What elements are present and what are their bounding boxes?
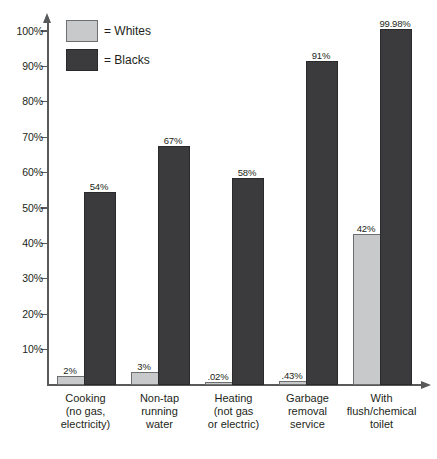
y-axis-line xyxy=(47,22,49,386)
y-axis-tick-label: 100% xyxy=(17,26,43,37)
y-axis-arrow-icon xyxy=(43,13,51,23)
legend-swatch-whites-icon xyxy=(66,20,98,42)
legend-label-whites: = Whites xyxy=(104,24,151,38)
bar-whites xyxy=(131,372,159,385)
bar-blacks xyxy=(232,178,264,385)
y-axis-tick-label: 60% xyxy=(22,167,43,178)
bar-value-label-blacks: 67% xyxy=(148,136,198,146)
y-axis-tick-label: 80% xyxy=(22,96,43,107)
x-axis-arrow-icon xyxy=(421,381,431,389)
bar-whites xyxy=(279,381,307,385)
y-axis-tick-label: 90% xyxy=(22,61,43,72)
y-axis-tick-label: 10% xyxy=(22,344,43,355)
bar-blacks xyxy=(306,61,338,385)
legend-label-blacks: = Blacks xyxy=(104,53,150,67)
bar-value-label-blacks: 54% xyxy=(74,182,124,192)
bar-whites xyxy=(57,376,85,385)
y-axis-tick-label: 50% xyxy=(22,203,43,214)
bar-chart: 10%20%30%40%50%60%70%80%90%100% 2%54%3%6… xyxy=(0,0,437,459)
y-axis-tick-label: 20% xyxy=(22,309,43,320)
y-axis-tick-label: 70% xyxy=(22,132,43,143)
legend-item-whites: = Whites xyxy=(66,18,151,43)
y-axis-tick-label: 40% xyxy=(22,238,43,249)
bar-blacks xyxy=(380,29,412,385)
bar-value-label-blacks: 91% xyxy=(296,51,346,61)
bar-whites xyxy=(205,382,233,385)
y-axis-tick-label: 30% xyxy=(22,273,43,284)
legend-swatch-blacks-icon xyxy=(66,49,98,71)
bar-blacks xyxy=(84,192,116,385)
bar-whites xyxy=(353,234,381,385)
bar-value-label-blacks: 58% xyxy=(222,168,272,178)
bottom-caption xyxy=(8,451,428,459)
category-label: With flush/chemical toilet xyxy=(337,392,427,432)
bar-value-label-blacks: 99.98% xyxy=(370,19,420,29)
legend-item-blacks: = Blacks xyxy=(66,47,151,72)
bar-blacks xyxy=(158,146,190,385)
legend: = Whites = Blacks xyxy=(66,18,151,76)
